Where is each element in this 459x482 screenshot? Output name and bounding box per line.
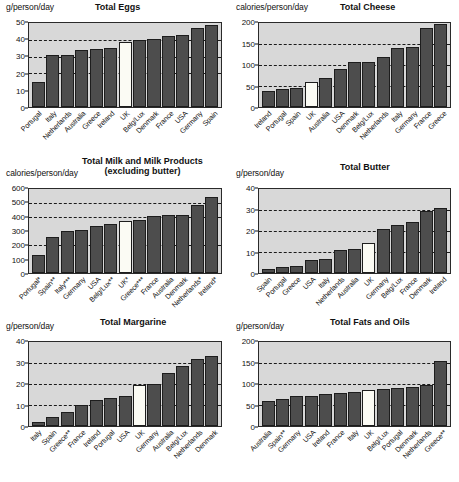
y-tick-label: 400: [12, 212, 25, 221]
plot-area: 01020304050PortugalItalyNetherlandsAustr…: [6, 22, 224, 108]
chart-panel: g/person/dayTotal Butter010203040SpainPo…: [230, 155, 459, 315]
bar: [147, 39, 160, 107]
bar: [119, 42, 132, 107]
bar: [262, 269, 275, 273]
bar: [406, 47, 419, 107]
y-tick-label: 30: [16, 52, 25, 61]
bar: [133, 40, 146, 107]
bar: [104, 224, 117, 273]
y-tick-label: 20: [16, 380, 25, 389]
chart-title-line1: Total Fats and Oils: [330, 318, 410, 328]
plot-box: [258, 22, 451, 108]
bar: [434, 208, 447, 273]
bar: [276, 89, 289, 107]
chart-title-line1: Total Margarine: [100, 318, 166, 328]
y-tick-label: 10: [246, 248, 255, 257]
y-axis-ticks: 0100200300400500600: [6, 188, 28, 274]
chart-title: Total Eggs: [95, 3, 140, 13]
bar: [276, 267, 289, 273]
bar: [377, 57, 390, 107]
bar: [176, 35, 189, 107]
y-axis-ticks: 050100150200: [236, 22, 258, 108]
bar: [290, 266, 303, 273]
chart-grid: g/person/dayTotal Eggs01020304050Portuga…: [0, 0, 459, 482]
bar: [391, 48, 404, 107]
y-tick-label: 150: [242, 39, 255, 48]
plot-box: [258, 188, 451, 274]
bar: [61, 231, 74, 273]
y-tick-label: 100: [12, 255, 25, 264]
y-tick-label: 50: [16, 18, 25, 27]
bar: [362, 62, 375, 107]
bar: [162, 215, 175, 273]
x-tick-label: Spain: [284, 109, 303, 128]
chart-title: Total Milk and Milk Products(excluding b…: [82, 157, 203, 176]
bar: [305, 260, 318, 273]
bar: [104, 398, 117, 426]
bar: [162, 373, 175, 426]
bar: [191, 359, 204, 426]
bar: [75, 230, 88, 273]
bar: [305, 82, 318, 107]
bar: [319, 78, 332, 107]
plot-area: 050100150200IrelandPortugalSpainUKAustra…: [236, 22, 453, 108]
y-axis-unit-label: calories/person/day: [6, 168, 78, 178]
bar: [147, 384, 160, 426]
bar: [362, 390, 375, 426]
bar: [377, 229, 390, 273]
bar: [319, 394, 332, 426]
y-tick-label: 40: [16, 337, 25, 346]
bar: [90, 226, 103, 273]
y-tick-label: 500: [12, 198, 25, 207]
y-tick-label: 150: [242, 358, 255, 367]
chart-panel: g/person/dayTotal Margarine010203040Ital…: [0, 315, 230, 482]
bar: [377, 389, 390, 426]
bar: [420, 28, 433, 107]
chart-panel: calories/person/dayTotal Milk and Milk P…: [0, 155, 230, 315]
bar: [434, 24, 447, 107]
y-axis-ticks: 010203040: [236, 188, 258, 274]
plot-box: [28, 188, 222, 274]
plot-box: [258, 341, 451, 427]
plot-box: [28, 22, 222, 108]
x-tick-label: USA: [115, 428, 132, 445]
y-tick-label: 300: [12, 227, 25, 236]
bar: [147, 216, 160, 273]
y-tick-label: 10: [16, 86, 25, 95]
bar: [133, 220, 146, 273]
x-tick-label: USA: [301, 275, 318, 292]
chart-title: Total Fats and Oils: [330, 318, 410, 328]
bar: [348, 392, 361, 426]
chart-subtitle: (excluding butter): [82, 167, 203, 177]
bar: [276, 399, 289, 426]
y-axis-unit-label: g/person/day: [6, 321, 54, 331]
bar: [61, 55, 74, 107]
y-tick-label: 50: [246, 82, 255, 91]
bar: [46, 417, 59, 426]
bar-series: [259, 23, 450, 107]
y-axis-ticks: 010203040: [6, 341, 28, 427]
y-axis-unit-label: calories/person/day: [236, 2, 308, 12]
bar: [305, 396, 318, 426]
bar: [362, 243, 375, 273]
chart-panel: g/person/dayTotal Eggs01020304050Portuga…: [0, 0, 230, 155]
bar: [334, 250, 347, 273]
chart-title-line1: Total Eggs: [95, 3, 140, 13]
y-axis-unit-label: g/person/day: [236, 321, 284, 331]
bar-series: [29, 23, 221, 107]
chart-title: Total Butter: [340, 163, 390, 173]
chart-title: Total Cheese: [340, 3, 395, 13]
y-axis-unit-label: g/person/day: [6, 2, 54, 12]
y-tick-label: 10: [16, 401, 25, 410]
bar: [434, 361, 447, 426]
y-tick-label: 30: [16, 358, 25, 367]
bar: [90, 400, 103, 426]
chart-title-line1: Total Butter: [340, 163, 390, 173]
bar: [32, 82, 45, 107]
bar: [348, 249, 361, 273]
bar: [90, 49, 103, 107]
y-axis-unit-label: g/person/day: [236, 168, 284, 178]
plot-box: [28, 341, 222, 427]
bar: [191, 28, 204, 107]
chart-panel: g/person/dayTotal Fats and Oils050100150…: [230, 315, 459, 482]
